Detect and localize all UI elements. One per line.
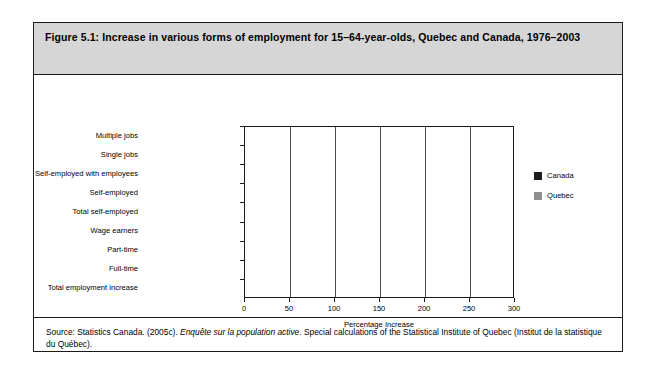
figure-frame: Figure 5.1: Increase in various forms of… — [33, 22, 623, 352]
category-label: Single jobs — [101, 150, 138, 159]
x-tick-150 — [379, 298, 380, 302]
chart-area: Multiple jobsSingle jobsSelf-employed wi… — [34, 75, 622, 318]
gridline-200 — [425, 127, 426, 297]
legend-swatch-canada — [534, 172, 542, 180]
x-tick-label-200: 200 — [418, 304, 431, 313]
x-tick-label-250: 250 — [463, 304, 476, 313]
figure-page: Figure 5.1: Increase in various forms of… — [0, 0, 656, 375]
gridline-50 — [290, 127, 291, 297]
legend-label-quebec: Quebec — [547, 191, 574, 200]
source-note-prefix: Source: Statistics Canada. (2005c). — [46, 327, 180, 337]
x-tick-200 — [424, 298, 425, 302]
x-tick-label-300: 300 — [508, 304, 521, 313]
legend-label-canada: Canada — [547, 171, 574, 180]
x-tick-label-50: 50 — [285, 304, 293, 313]
x-tick-label-150: 150 — [373, 304, 386, 313]
x-tick-300 — [514, 298, 515, 302]
category-label: Total employment increase — [48, 283, 138, 292]
x-tick-250 — [469, 298, 470, 302]
gridline-100 — [335, 127, 336, 297]
category-label: Self-employed — [89, 188, 138, 197]
source-note-italic: Enquête sur la population active — [180, 327, 299, 337]
figure-title: Figure 5.1: Increase in various forms of… — [45, 30, 612, 45]
x-tick-100 — [334, 298, 335, 302]
category-label: Multiple jobs — [96, 131, 138, 140]
category-label: Part-time — [107, 245, 138, 254]
category-label: Total self-employed — [73, 207, 138, 216]
figure-title-band: Figure 5.1: Increase in various forms of… — [34, 23, 622, 75]
legend-item-canada: Canada — [534, 171, 574, 180]
plot-area — [244, 126, 514, 298]
chart-legend: Canada Quebec — [534, 171, 574, 211]
legend-item-quebec: Quebec — [534, 191, 574, 200]
source-note-area: Source: Statistics Canada. (2005c). Enqu… — [34, 318, 622, 351]
x-tick-0 — [244, 298, 245, 302]
category-label: Self-employed with employees — [35, 169, 138, 178]
legend-swatch-quebec — [534, 192, 542, 200]
source-note: Source: Statistics Canada. (2005c). Enqu… — [46, 327, 610, 350]
category-label: Wage earners — [91, 226, 138, 235]
gridline-150 — [380, 127, 381, 297]
x-tick-label-100: 100 — [328, 304, 341, 313]
x-tick-label-0: 0 — [242, 304, 246, 313]
x-tick-50 — [289, 298, 290, 302]
category-label: Full-time — [109, 264, 138, 273]
gridline-250 — [470, 127, 471, 297]
